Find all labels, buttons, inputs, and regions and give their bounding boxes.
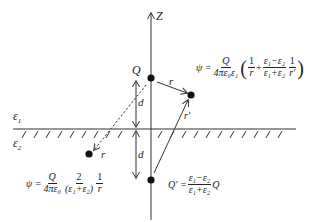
r-prime-label: r′ — [184, 111, 190, 121]
z-axis-label: Z — [156, 10, 163, 22]
boundary-hatching — [22, 131, 282, 138]
charge-q-label: Q — [132, 64, 141, 76]
r-vector-lower-dashed — [94, 85, 146, 150]
r-label-lower: r — [101, 149, 105, 160]
medium-1-subscript: 1 — [18, 117, 22, 125]
open-paren: ( — [240, 56, 247, 78]
field-point-lower — [85, 150, 92, 157]
potential-formula-medium-2: ψ = Q 4πε₀ 2 (ε₁+ε₂) 1 r — [26, 172, 104, 194]
potential-formula-medium-1: ψ = Q 4πε₀ε₁ ( 1 r + ε₁−ε₂ ε₁+ε₂ 1 r′ ) — [196, 56, 304, 78]
image-charge-formula: Q′ = ε₁−ε₂ ε₁+ε₂ Q — [168, 173, 220, 195]
image-charge-point — [147, 176, 154, 183]
formula-lhs: ψ = — [26, 178, 41, 189]
medium-2-subscript: 2 — [18, 144, 22, 152]
close-paren: ) — [297, 56, 304, 78]
formula-lhs: Q′ = — [168, 179, 187, 190]
r-label-upper: r — [169, 76, 173, 87]
medium-2-label: ε2 — [13, 137, 21, 152]
distance-label-lower: d — [138, 149, 144, 160]
dielectric-boundary — [13, 129, 296, 138]
formula-lhs: ψ = — [196, 62, 211, 73]
distance-label-upper: d — [138, 97, 144, 108]
field-point-upper — [187, 91, 194, 98]
coefficient-fraction: Q 4πε₀ε₁ — [212, 56, 239, 78]
charge-q-point — [147, 74, 154, 81]
medium-1-label: ε1 — [13, 110, 21, 125]
